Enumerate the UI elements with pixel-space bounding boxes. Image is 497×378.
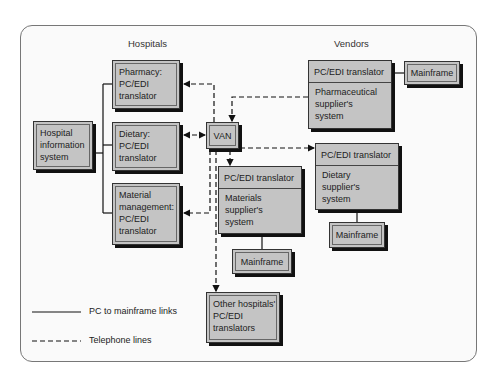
dietary-supplier-label: Dietary supplier's system: [322, 169, 360, 205]
dietary-translator-label: Dietary: PC/EDI translator: [119, 128, 157, 164]
pharmaceutical-supplier-label: Pharmaceutical supplier's system: [315, 86, 377, 122]
dietary-mainframe-box: Mainframe: [329, 222, 385, 248]
dietary-supplier-translator-header: PC/EDI translator: [316, 144, 398, 166]
other-hospitals-box: Other hospitals' PC/EDI translators: [206, 292, 280, 343]
pharmaceutical-mainframe-box: Mainframe: [404, 61, 460, 85]
dietary-translator-box: Dietary: PC/EDI translator: [112, 122, 180, 171]
materials-supplier-translator-header: PC/EDI translator: [219, 167, 301, 189]
van-box: VAN: [206, 122, 239, 149]
materials-supplier-box: PC/EDI translator Materials supplier's s…: [218, 166, 302, 234]
hospital-information-system-box: Hospital information system: [33, 121, 93, 170]
van-label: VAN: [207, 123, 238, 148]
pharmaceutical-supplier-box: PC/EDI translator Pharmaceutical supplie…: [308, 60, 392, 129]
pharmacy-translator-box: Pharmacy: PC/EDI translator: [112, 60, 180, 109]
pharmaceutical-translator-header: PC/EDI translator: [309, 61, 391, 83]
materials-supplier-label: Materials supplier's system: [225, 192, 263, 228]
legend-dashed-label: Telephone lines: [89, 335, 152, 345]
dietary-supplier-box: PC/EDI translator Dietary supplier's sys…: [315, 143, 399, 210]
materials-mainframe-label: Mainframe: [233, 250, 291, 273]
dietary-mainframe-label: Mainframe: [330, 223, 384, 247]
material-management-translator-label: Material management: PC/EDI translator: [119, 189, 174, 237]
hospital-information-system-label: Hospital information system: [40, 127, 85, 163]
pharmaceutical-mainframe-label: Mainframe: [405, 62, 459, 84]
legend-solid-label: PC to mainframe links: [89, 306, 177, 316]
other-hospitals-label: Other hospitals' PC/EDI translators: [213, 298, 275, 334]
materials-mainframe-box: Mainframe: [232, 249, 292, 274]
material-management-translator-box: Material management: PC/EDI translator: [112, 183, 180, 245]
pharmacy-translator-label: Pharmacy: PC/EDI translator: [119, 66, 162, 102]
